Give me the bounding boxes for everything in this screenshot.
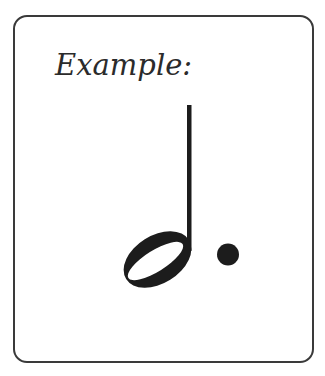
augmentation-dot <box>217 244 239 266</box>
dotted-half-note-icon <box>0 0 325 376</box>
note-stem <box>187 105 192 251</box>
